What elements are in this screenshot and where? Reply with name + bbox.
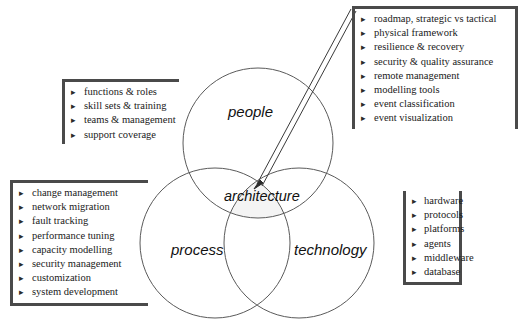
note-list-technology: ▸ hardware ▸ protocols ▸ platforms ▸ age… (411, 194, 458, 279)
list-item-label: security management (32, 258, 122, 269)
bullet-triangle-icon: ▸ (361, 26, 366, 40)
list-item: ▸ functions & roles (70, 85, 179, 99)
list-item-label: support coverage (84, 129, 156, 140)
list-item-label: physical framework (374, 27, 458, 38)
bullet-triangle-icon: ▸ (71, 85, 76, 99)
bullet-triangle-icon: ▸ (361, 12, 366, 26)
list-item-label: teams & management (84, 114, 176, 125)
list-item-label: skill sets & training (84, 100, 167, 111)
bullet-triangle-icon: ▸ (19, 214, 24, 228)
bullet-triangle-icon: ▸ (361, 40, 366, 54)
list-item-label: middleware (424, 252, 474, 263)
note-list-architecture: ▸ roadmap, strategic vs tactical ▸ physi… (360, 12, 513, 126)
list-item: ▸ support coverage (70, 128, 179, 142)
list-item: ▸ performance tuning (18, 229, 148, 243)
list-item-label: performance tuning (32, 230, 115, 241)
list-item: ▸ platforms (411, 222, 458, 236)
list-item: ▸ network migration (18, 200, 148, 214)
bullet-triangle-icon: ▸ (71, 128, 76, 142)
bullet-triangle-icon: ▸ (19, 271, 24, 285)
list-item: ▸ resilience & recovery (360, 40, 513, 54)
circle-label-technology: technology (294, 241, 367, 258)
note-box-architecture: ▸ roadmap, strategic vs tactical ▸ physi… (352, 6, 518, 129)
list-item-label: fault tracking (32, 215, 88, 226)
list-item: ▸ system development (18, 285, 148, 299)
bullet-triangle-icon: ▸ (19, 186, 24, 200)
bullet-triangle-icon: ▸ (19, 257, 24, 271)
list-item-label: event classification (374, 98, 455, 109)
list-item-label: event visualization (374, 112, 453, 123)
list-item-label: customization (32, 272, 91, 283)
circle-label-people: people (228, 103, 273, 120)
list-item-label: modelling tools (374, 84, 440, 95)
bullet-triangle-icon: ▸ (361, 69, 366, 83)
note-list-process: ▸ change management ▸ network migration … (18, 186, 148, 300)
list-item: ▸ capacity modelling (18, 243, 148, 257)
list-item-label: functions & roles (84, 86, 157, 97)
bullet-triangle-icon: ▸ (412, 265, 417, 279)
bullet-triangle-icon: ▸ (361, 97, 366, 111)
list-item: ▸ event visualization (360, 111, 513, 125)
list-item: ▸ fault tracking (18, 214, 148, 228)
list-item-label: system development (32, 286, 118, 297)
list-item: ▸ security management (18, 257, 148, 271)
bullet-triangle-icon: ▸ (71, 99, 76, 113)
note-list-people: ▸ functions & roles ▸ skill sets & train… (70, 85, 179, 142)
bullet-triangle-icon: ▸ (71, 113, 76, 127)
list-item: ▸ database (411, 265, 458, 279)
list-item-label: remote management (374, 70, 459, 81)
bullet-triangle-icon: ▸ (361, 111, 366, 125)
list-item: ▸ protocols (411, 208, 458, 222)
list-item: ▸ event classification (360, 97, 513, 111)
list-item: ▸ teams & management (70, 113, 179, 127)
list-item: ▸ agents (411, 237, 458, 251)
list-item: ▸ roadmap, strategic vs tactical (360, 12, 513, 26)
list-item-label: protocols (424, 209, 463, 220)
list-item-label: network migration (32, 201, 110, 212)
bullet-triangle-icon: ▸ (412, 237, 417, 251)
list-item-label: security & quality assurance (374, 56, 493, 67)
center-label-architecture: architecture (224, 188, 300, 204)
note-box-technology: ▸ hardware ▸ protocols ▸ platforms ▸ age… (403, 191, 462, 285)
bullet-triangle-icon: ▸ (19, 200, 24, 214)
list-item-label: agents (424, 238, 451, 249)
list-item: ▸ physical framework (360, 26, 513, 40)
bullet-triangle-icon: ▸ (19, 229, 24, 243)
bullet-triangle-icon: ▸ (361, 55, 366, 69)
list-item-label: resilience & recovery (374, 41, 464, 52)
diagram-canvas: people process technology architecture ▸… (0, 0, 520, 331)
bullet-triangle-icon: ▸ (412, 208, 417, 222)
list-item-label: hardware (424, 195, 463, 206)
list-item: ▸ middleware (411, 251, 458, 265)
list-item: ▸ change management (18, 186, 148, 200)
list-item: ▸ modelling tools (360, 83, 513, 97)
list-item-label: capacity modelling (32, 244, 112, 255)
bullet-triangle-icon: ▸ (412, 194, 417, 208)
list-item-label: database (424, 266, 460, 277)
note-box-people: ▸ functions & roles ▸ skill sets & train… (62, 79, 179, 144)
bullet-triangle-icon: ▸ (412, 222, 417, 236)
list-item-label: change management (32, 187, 118, 198)
list-item: ▸ hardware (411, 194, 458, 208)
list-item: ▸ security & quality assurance (360, 55, 513, 69)
bullet-triangle-icon: ▸ (412, 251, 417, 265)
bullet-triangle-icon: ▸ (19, 243, 24, 257)
bullet-triangle-icon: ▸ (19, 285, 24, 299)
list-item: ▸ remote management (360, 69, 513, 83)
note-box-process: ▸ change management ▸ network migration … (10, 180, 148, 306)
list-item: ▸ customization (18, 271, 148, 285)
list-item: ▸ skill sets & training (70, 99, 179, 113)
list-item-label: platforms (424, 223, 464, 234)
list-item-label: roadmap, strategic vs tactical (374, 13, 496, 24)
circle-label-process: process (171, 241, 224, 258)
bullet-triangle-icon: ▸ (361, 83, 366, 97)
